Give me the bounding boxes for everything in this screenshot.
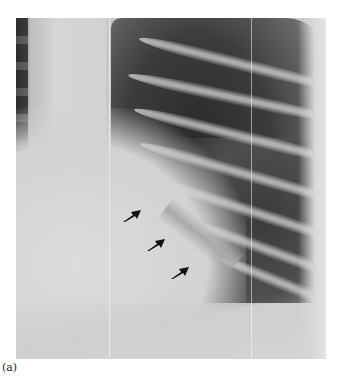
arrow-icon (147, 239, 165, 251)
scan-line (251, 18, 252, 359)
radiograph-image (16, 18, 326, 359)
chest-wall-edge (298, 18, 326, 359)
scan-line (109, 18, 110, 359)
figure-caption: (a) (2, 361, 17, 374)
diaphragm-region (16, 303, 326, 359)
arrow-icon (171, 267, 189, 279)
arrow-icon (123, 210, 141, 222)
